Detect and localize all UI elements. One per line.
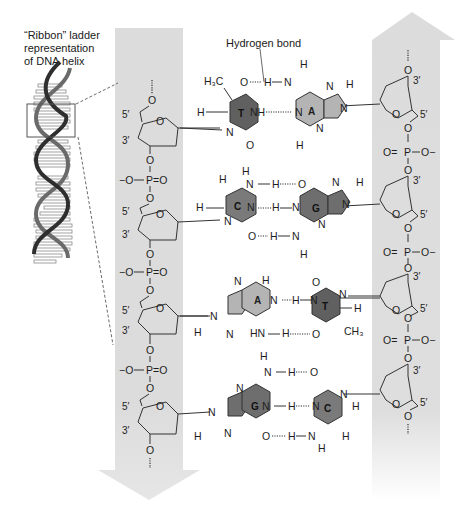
svg-text:H: H — [282, 327, 290, 339]
svg-text:N: N — [292, 230, 300, 242]
svg-text:O: O — [146, 382, 154, 394]
svg-text:H: H — [288, 430, 296, 442]
svg-text:N: N — [226, 126, 234, 138]
svg-text:N: N — [332, 176, 340, 188]
svg-text:N: N — [226, 328, 234, 340]
svg-text:O: O — [156, 208, 164, 220]
svg-text:H₃C: H₃C — [204, 75, 224, 87]
svg-text:H: H — [300, 248, 308, 260]
svg-text:T: T — [238, 108, 244, 119]
svg-text:O: O — [404, 222, 412, 234]
base-pair-1-T-A: T H₃C H N NH O O H N H A N N H N N H — [180, 58, 354, 151]
svg-text:O: O — [404, 312, 412, 324]
svg-text:H: H — [264, 76, 272, 88]
base-pair-4-G-C: H N H O G N N N H H N O H N H C N N — [194, 350, 360, 454]
base-pair-3-A-T: A N N H N H H N HN H O T N O N H CH₃ — [180, 274, 380, 340]
svg-text:H: H — [197, 106, 205, 118]
svg-text:O=: O= — [383, 146, 397, 158]
svg-text:N: N — [270, 294, 278, 306]
svg-text:N: N — [342, 198, 350, 210]
svg-text:P: P — [404, 334, 411, 346]
svg-text:3′: 3′ — [413, 271, 421, 282]
svg-text:H: H — [356, 176, 364, 188]
svg-text:O: O — [156, 302, 164, 314]
svg-text:O: O — [404, 352, 412, 364]
svg-text:P: P — [146, 266, 153, 278]
svg-text:H: H — [300, 58, 308, 70]
svg-text:N: N — [339, 288, 347, 300]
svg-text:N: N — [284, 76, 292, 88]
svg-text:−O: −O — [119, 174, 133, 186]
svg-text:N: N — [292, 201, 300, 213]
svg-text:H: H — [270, 230, 278, 242]
svg-text:H: H — [196, 201, 204, 213]
svg-text:NH: NH — [250, 106, 265, 118]
svg-text:=O: =O — [153, 266, 167, 278]
svg-text:N: N — [340, 388, 348, 400]
svg-text:P: P — [146, 364, 153, 376]
svg-text:N: N — [318, 218, 326, 230]
svg-text:5′: 5′ — [122, 401, 130, 412]
svg-text:O: O — [404, 122, 412, 134]
svg-text:A: A — [254, 295, 261, 306]
svg-text:5′: 5′ — [420, 209, 428, 220]
svg-text:H: H — [272, 178, 280, 190]
svg-text:N: N — [224, 427, 232, 439]
svg-text:N: N — [234, 275, 242, 287]
svg-text:O−: O− — [421, 246, 435, 258]
svg-text:3′: 3′ — [122, 229, 130, 240]
svg-text:N: N — [236, 382, 244, 394]
svg-text:O: O — [148, 94, 156, 106]
svg-text:O: O — [404, 164, 412, 176]
svg-text:N: N — [224, 215, 232, 227]
svg-text:5′: 5′ — [122, 305, 130, 316]
svg-text:3′: 3′ — [122, 425, 130, 436]
svg-text:H: H — [219, 173, 227, 185]
svg-text:H: H — [272, 201, 280, 213]
svg-text:H: H — [288, 366, 296, 378]
svg-text:P: P — [404, 146, 411, 158]
svg-text:H: H — [260, 350, 268, 362]
svg-text:O=: O= — [383, 246, 397, 258]
svg-text:O: O — [404, 64, 412, 76]
svg-text:5′: 5′ — [420, 109, 428, 120]
svg-text:O: O — [240, 76, 248, 88]
svg-text:O: O — [246, 139, 254, 151]
svg-text:N: N — [310, 294, 318, 306]
svg-text:N: N — [312, 400, 320, 412]
svg-text:O: O — [156, 400, 164, 412]
svg-text:O: O — [146, 154, 154, 166]
svg-text:N: N — [295, 106, 303, 118]
svg-text:−O: −O — [119, 364, 133, 376]
svg-text:C: C — [324, 403, 331, 414]
svg-text:H: H — [194, 326, 202, 338]
svg-text:O: O — [392, 208, 400, 220]
svg-text:G: G — [312, 203, 320, 214]
svg-text:O−: O− — [421, 146, 435, 158]
svg-text:O: O — [404, 410, 412, 422]
svg-text:=O: =O — [153, 364, 167, 376]
svg-text:O: O — [262, 430, 270, 442]
svg-text:O: O — [146, 192, 154, 204]
dna-structure-diagram: “Ribbon” ladder representation of DNA he… — [0, 0, 466, 510]
svg-text:O: O — [312, 328, 320, 340]
svg-text:N: N — [264, 366, 272, 378]
svg-text:O−: O− — [421, 334, 435, 346]
svg-text:O: O — [156, 115, 164, 127]
svg-text:O: O — [298, 178, 306, 190]
svg-text:O: O — [146, 344, 154, 356]
svg-text:N: N — [326, 80, 334, 92]
svg-text:5′: 5′ — [420, 303, 428, 314]
svg-text:3′: 3′ — [122, 135, 130, 146]
svg-text:N: N — [316, 122, 324, 134]
svg-text:3′: 3′ — [122, 325, 130, 336]
svg-text:T: T — [322, 301, 328, 312]
svg-text:5′: 5′ — [122, 206, 130, 217]
svg-text:H: H — [342, 430, 350, 442]
svg-text:P: P — [404, 246, 411, 258]
svg-text:N: N — [246, 178, 254, 190]
svg-text:O: O — [392, 398, 400, 410]
svg-text:H: H — [242, 165, 250, 177]
svg-text:O: O — [146, 284, 154, 296]
svg-text:A: A — [308, 106, 315, 117]
